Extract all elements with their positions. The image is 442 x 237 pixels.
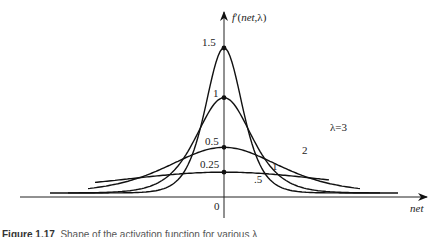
peak-dot: [222, 46, 227, 51]
y-axis-label: f′(net,λ): [232, 11, 267, 24]
peak-dot: [222, 95, 227, 100]
caption-text: Shape of the activation function for var…: [60, 229, 257, 237]
curve-label-0.5: .5: [254, 173, 263, 185]
peak-label-1.5: 1.5: [202, 36, 216, 48]
x-axis-label: net: [410, 202, 424, 214]
peak-label-1: 1: [213, 87, 219, 99]
caption-figure-number: Figure 1.17: [2, 229, 55, 237]
peak-dot: [222, 170, 227, 175]
curve-label-lambda-3: λ=3: [330, 121, 348, 133]
curve-label-2: 2: [302, 144, 308, 156]
peak-label-0.5: 0.5: [205, 135, 219, 147]
peak-label-0.25: 0.25: [200, 158, 220, 170]
peak-dot: [222, 145, 227, 150]
activation-derivative-plot: f′(net,λ) net 0 1.5 1 0.5 0.25 λ=3 2 1 .…: [0, 0, 442, 237]
origin-label: 0: [214, 200, 220, 212]
figure-caption: Figure 1.17 Shape of the activation func…: [2, 229, 257, 237]
curve-label-1: 1: [272, 160, 278, 172]
